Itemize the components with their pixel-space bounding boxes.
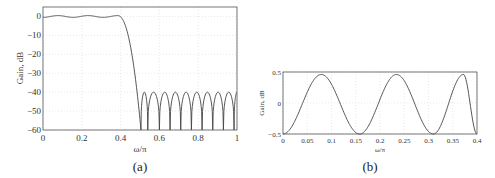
chart-a-curve — [43, 16, 237, 130]
y-tick-label: −30 — [27, 68, 42, 78]
x-tick-label: 0 — [281, 137, 285, 145]
chart-a-frame — [43, 7, 237, 130]
y-tick-label: −10 — [27, 30, 42, 40]
y-tick-label: 0.5 — [272, 69, 281, 77]
chart-a-ylabel: Gain, dB — [15, 52, 25, 85]
x-tick-label: 0.35 — [447, 137, 460, 145]
y-tick-label: −20 — [27, 49, 42, 59]
x-tick-label: 0.4 — [115, 133, 127, 143]
x-tick-label: 0.1 — [327, 137, 336, 145]
x-tick-label: 0 — [41, 133, 46, 143]
y-tick-label: 0 — [278, 100, 282, 108]
chart-a-grid — [43, 7, 237, 130]
x-tick-label: 0.05 — [301, 137, 314, 145]
x-tick-label: 0.3 — [424, 137, 433, 145]
x-tick-label: 0.4 — [473, 137, 482, 145]
chart-b-curve — [283, 74, 477, 134]
y-tick-label: −60 — [27, 125, 42, 135]
y-tick-label: −0.5 — [268, 131, 281, 139]
y-tick-label: −50 — [27, 106, 42, 116]
x-tick-label: 0.2 — [376, 137, 385, 145]
gain-curve — [43, 16, 237, 130]
y-tick-label: −40 — [27, 87, 42, 97]
caption-b: (b) — [362, 159, 377, 174]
caption-a: (a) — [133, 159, 147, 174]
x-tick-label: 0.2 — [76, 133, 87, 143]
chart-a-xlabel: ω/π — [134, 144, 147, 154]
y-tick-label: 0 — [37, 11, 42, 21]
figure: 00.20.40.60.810−10−20−30−40−50−60 ω/π Ga… — [0, 0, 495, 178]
chart-a-ticks: 00.20.40.60.810−10−20−30−40−50−60 — [27, 11, 239, 143]
chart-b-xlabel: ω/π — [375, 146, 386, 154]
chart-b-gain-passband: 00.050.10.150.20.250.30.350.40.50−0.5 ω/… — [258, 69, 482, 174]
x-tick-label: 0.25 — [398, 137, 411, 145]
x-tick-label: 0.8 — [193, 133, 205, 143]
x-tick-label: 1 — [235, 133, 240, 143]
chart-b-grid — [283, 72, 477, 134]
x-tick-label: 0.6 — [154, 133, 166, 143]
chart-a-gain-full: 00.20.40.60.810−10−20−30−40−50−60 ω/π Ga… — [15, 7, 239, 174]
gain-curve — [283, 74, 477, 134]
x-tick-label: 0.15 — [350, 137, 363, 145]
chart-b-ylabel: Gain, dB — [258, 90, 266, 116]
